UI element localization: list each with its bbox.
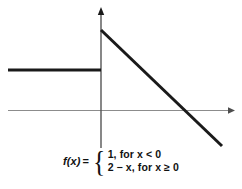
case-1-condition: for x < 0 bbox=[120, 148, 161, 160]
case-brace: { bbox=[93, 148, 105, 174]
piecewise-function-figure: f(x)={ 1, for x < 0 2 − x, for x ≥ 0 bbox=[0, 0, 242, 189]
case-1-expression: 1, bbox=[108, 148, 117, 160]
x-axis-arrowhead-icon bbox=[228, 107, 235, 114]
curve-linear-branch bbox=[101, 30, 222, 146]
case-2-expression: 2 − x, bbox=[108, 161, 135, 173]
equals-sign: = bbox=[82, 155, 93, 167]
case-2-condition: for x ≥ 0 bbox=[138, 161, 179, 173]
function-name-label: f(x) bbox=[63, 155, 82, 167]
y-axis bbox=[98, 7, 104, 148]
x-axis bbox=[8, 107, 235, 114]
formula-inner: f(x)={ 1, for x < 0 2 − x, for x ≥ 0 bbox=[63, 148, 179, 174]
y-axis-arrowhead-icon bbox=[98, 7, 104, 15]
case-line-2: 2 − x, for x ≥ 0 bbox=[108, 161, 179, 174]
function-definition: f(x)={ 1, for x < 0 2 − x, for x ≥ 0 bbox=[0, 148, 242, 174]
cases-list: 1, for x < 0 2 − x, for x ≥ 0 bbox=[108, 148, 179, 174]
case-line-1: 1, for x < 0 bbox=[108, 148, 179, 161]
